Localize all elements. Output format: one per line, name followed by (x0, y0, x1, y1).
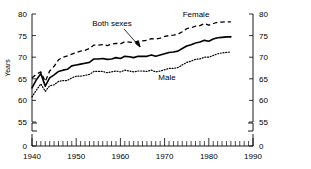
series-line-male[interactable] (32, 52, 231, 97)
y-tick-label-right-70: 70 (259, 53, 268, 62)
left-axis-break-bracket[interactable] (32, 123, 37, 131)
y-tick-label-right-80: 80 (259, 10, 268, 19)
series-label-both-sexes: Both sexes (92, 19, 132, 28)
x-tick-label-1960: 1960 (112, 152, 130, 161)
y-tick-label-left-60: 60 (18, 96, 27, 105)
y-tick-label-right-65: 65 (259, 75, 268, 84)
y-tick-label-left-0: 0 (23, 142, 28, 151)
series-line-both-sexes[interactable] (32, 37, 231, 88)
life-expectancy-chart: 0055556060656570707575808019401950196019… (0, 0, 311, 169)
y-axis-title: Years (4, 59, 11, 77)
series-label-male: Male (158, 73, 176, 82)
y-tick-label-right-0: 0 (259, 142, 264, 151)
series-label-female: Female (183, 10, 210, 19)
y-tick-label-left-75: 75 (18, 32, 27, 41)
y-tick-label-left-80: 80 (18, 10, 27, 19)
y-tick-label-right-75: 75 (259, 32, 268, 41)
x-tick-label-1990: 1990 (244, 152, 262, 161)
y-tick-label-left-65: 65 (18, 75, 27, 84)
chart-canvas: 0055556060656570707575808019401950196019… (0, 0, 311, 169)
x-tick-label-1950: 1950 (67, 152, 85, 161)
x-tick-label-1970: 1970 (156, 152, 174, 161)
x-tick-label-1980: 1980 (200, 152, 218, 161)
y-tick-label-left-55: 55 (18, 118, 27, 127)
x-tick-label-1940: 1940 (23, 152, 41, 161)
right-axis-break-bracket[interactable] (248, 123, 253, 131)
series-line-female[interactable] (32, 22, 231, 82)
y-tick-label-right-60: 60 (259, 96, 268, 105)
y-tick-label-left-70: 70 (18, 53, 27, 62)
y-tick-label-right-55: 55 (259, 118, 268, 127)
